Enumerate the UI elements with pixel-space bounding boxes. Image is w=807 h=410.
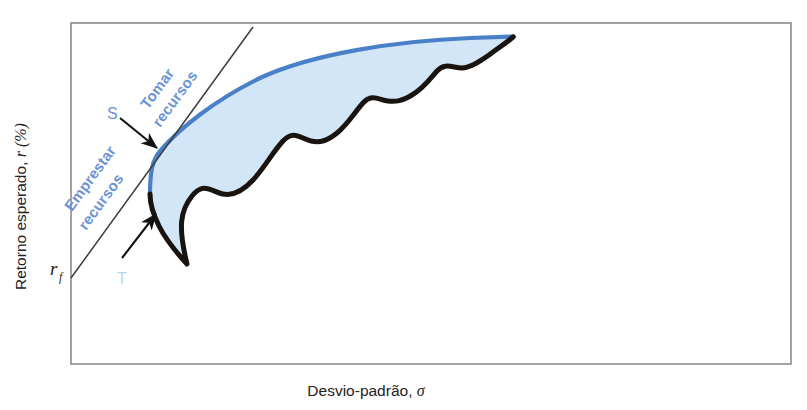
x-axis-title: Desvio-padrão, σ xyxy=(307,382,425,399)
rf-subscript: f xyxy=(59,270,64,284)
portfolio-frontier-chart: Tomar recursos Emprestar recursos S T r … xyxy=(0,0,807,410)
y-axis-title: Retorno esperado, r (%) xyxy=(12,123,30,290)
point-s-label: S xyxy=(107,105,118,122)
point-t-label: T xyxy=(117,270,127,287)
risk-free-rate-label: r f xyxy=(50,258,64,284)
figure-container: Tomar recursos Emprestar recursos S T r … xyxy=(0,0,807,410)
x-axis-title-text: Desvio-padrão, σ xyxy=(307,382,425,399)
rf-symbol: r xyxy=(50,258,58,279)
y-axis-title-text: Retorno esperado, r (%) xyxy=(12,123,30,290)
